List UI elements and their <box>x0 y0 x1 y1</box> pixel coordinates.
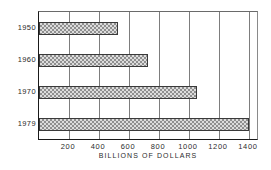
x-axis-tick-800: 800 <box>151 142 166 151</box>
y-axis-label-1979: 1979 <box>2 119 36 128</box>
x-axis-tick-1000: 1000 <box>178 142 198 151</box>
x-axis-title: BILLIONS OF DOLLARS <box>38 152 258 159</box>
y-axis-label-1970: 1970 <box>2 87 36 96</box>
gridline-1400 <box>249 12 250 139</box>
x-axis-tick-1200: 1200 <box>208 142 228 151</box>
bar-1960 <box>39 54 148 67</box>
bar-1979 <box>39 118 249 131</box>
plot-area <box>38 11 258 140</box>
bar-1950 <box>39 22 118 35</box>
y-axis-label-1960: 1960 <box>2 55 36 64</box>
x-axis-tick-200: 200 <box>61 142 76 151</box>
bar-1970 <box>39 86 197 99</box>
y-axis-label-1950: 1950 <box>2 23 36 32</box>
x-axis-tick-1400: 1400 <box>238 142 258 151</box>
bar-chart: 1950196019701979 20040060080010001200140… <box>0 0 271 170</box>
y-axis-category-labels: 1950196019701979 <box>0 11 36 140</box>
x-axis-tick-400: 400 <box>91 142 106 151</box>
x-axis-tick-600: 600 <box>121 142 136 151</box>
